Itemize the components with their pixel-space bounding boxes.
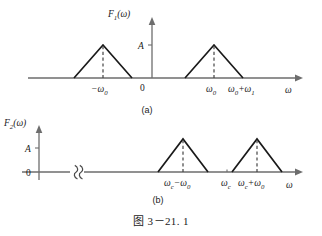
panel-b-tag: (b)	[153, 195, 164, 205]
panel-a-y-axis-label-tail: (ω)	[117, 9, 130, 20]
panel-a-x-axis-arrow	[295, 75, 303, 82]
panel-a-y-axis-arrow	[149, 17, 156, 25]
panel-a-tick-omega0-sub: 0	[213, 89, 217, 96]
panel-b-tick-lower-sub2: 0	[187, 183, 191, 190]
axis-break-icon	[70, 165, 84, 179]
panel-b-y-axis-arrow	[36, 125, 43, 133]
panel-b-tick-lower-tail: −ω	[174, 178, 187, 188]
panel-a: F1(ω) A 0 −ω0 ω0 ω0+ω1 ω (a)	[28, 9, 303, 115]
panel-a-tag: (a)	[142, 105, 153, 115]
figure-caption: 图 3－21. 1	[0, 212, 322, 228]
panel-b-x-axis-label: ω	[286, 180, 293, 190]
panel-b-y-axis-label: F2(ω)	[3, 118, 26, 130]
panel-a-amplitude-label: A	[137, 41, 144, 51]
panel-b-amplitude-label: A	[24, 144, 31, 154]
panel-b-tick-label-wc-minus-w0: ωc−ω0	[164, 178, 191, 190]
panel-a-tick-label-neg-omega0: −ω0	[91, 84, 108, 96]
panel-a-origin-label: 0	[140, 83, 145, 93]
panel-b-upper-sideband-triangle	[232, 139, 282, 172]
panel-b-tick-label-wc: ωc	[221, 178, 231, 190]
panel-b-origin-label: 0	[26, 168, 31, 178]
panel-b-tick-label-wc-plus-w0: ωc+ω0	[238, 178, 265, 190]
panel-a-tick-sum-sub2: 1	[251, 89, 254, 96]
panel-a-negative-triangle	[74, 45, 132, 78]
panel-b-x-axis-arrow	[295, 169, 303, 176]
panel-b: F2(ω) A 0 ωc−ω0 ωc ωc+ω0 ω (b)	[3, 118, 303, 205]
panel-b-lower-sideband-triangle	[158, 139, 208, 172]
panel-a-tick-label-omega0: ω0	[206, 84, 217, 96]
panel-a-tick-neg-omega0-main: −ω	[91, 84, 104, 94]
panel-a-y-axis-label: F1(ω)	[107, 9, 130, 21]
panel-b-y-axis-label-tail: (ω)	[13, 118, 26, 129]
panel-a-positive-triangle	[185, 45, 243, 78]
panel-a-x-axis-label: ω	[285, 85, 292, 95]
panel-b-tick-upper-tail: +ω	[248, 178, 261, 188]
panel-b-tick-upper-sub2: 0	[261, 183, 265, 190]
figure-svg: F1(ω) A 0 −ω0 ω0 ω0+ω1 ω (a)	[0, 0, 322, 212]
panel-a-tick-sum-tail: +ω	[238, 84, 251, 94]
panel-a-tick-label-omega0-plus-omega1: ω0+ω1	[228, 84, 255, 96]
panel-a-tick-neg-omega0-sub: 0	[104, 89, 108, 96]
panel-b-tick-carrier-sub: c	[228, 183, 231, 190]
figure-container: F1(ω) A 0 −ω0 ω0 ω0+ω1 ω (a)	[0, 0, 322, 236]
